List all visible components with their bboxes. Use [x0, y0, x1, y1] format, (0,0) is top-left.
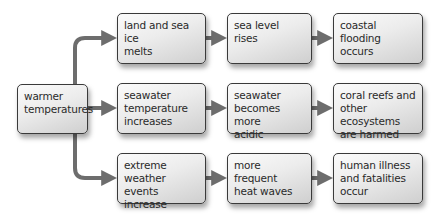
node-sea-level-rises: sea level rises [227, 13, 312, 64]
node-label: coral reefs and other ecosystems are har… [340, 89, 416, 141]
arrow-source-to-row3 [75, 134, 110, 178]
node-label: seawater temperature increases [124, 89, 199, 128]
node-seawater-acidic: seawater becomes more acidic [227, 83, 312, 134]
node-warmer-temperatures: warmer temperatures [17, 84, 88, 134]
node-coastal-flooding: coastal flooding occurs [333, 13, 423, 64]
node-label: warmer temperatures [24, 90, 81, 116]
node-ice-melts: land and sea ice melts [117, 13, 206, 64]
node-label: land and sea ice melts [124, 19, 199, 58]
node-heat-waves: more frequent heat waves [227, 153, 312, 204]
node-label: seawater becomes more acidic [234, 89, 305, 141]
flow-diagram: warmer temperatures land and sea ice mel… [0, 0, 443, 221]
node-seawater-temperature: seawater temperature increases [117, 83, 206, 134]
node-label: more frequent heat waves [234, 159, 305, 198]
node-human-illness: human illness and fatalities occur [333, 153, 423, 204]
node-label: human illness and fatalities occur [340, 159, 416, 198]
node-label: coastal flooding occurs [340, 19, 416, 58]
node-coral-reefs-harmed: coral reefs and other ecosystems are har… [333, 83, 423, 134]
node-label: extreme weather events increase [124, 159, 199, 211]
arrow-source-to-row1 [75, 38, 110, 84]
node-extreme-weather: extreme weather events increase [117, 153, 206, 204]
node-label: sea level rises [234, 19, 305, 45]
